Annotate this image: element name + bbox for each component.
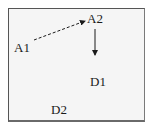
edges-layer [0,0,153,127]
node-a1-label: A1 [14,41,30,54]
edge-a1-a2-dashed-arrow [34,21,85,40]
node-a2-label: A2 [87,12,103,25]
node-d1-label: D1 [90,75,106,88]
node-d2-label: D2 [51,103,67,116]
